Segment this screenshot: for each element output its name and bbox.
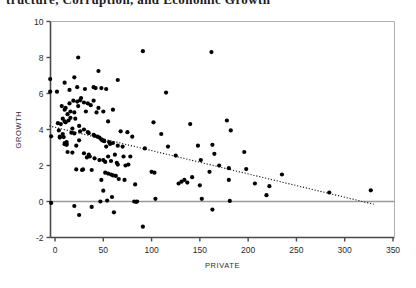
data-point: [210, 143, 214, 147]
data-point: [72, 75, 76, 79]
data-point: [94, 110, 98, 114]
x-tick-label: 250: [289, 245, 303, 255]
data-point: [102, 139, 106, 143]
data-point: [141, 225, 145, 229]
data-point: [227, 166, 231, 170]
data-point: [48, 77, 52, 81]
scatter-plot-figure: tructure, Corruption, and Economic Growt…: [0, 0, 416, 288]
x-tick-label: 50: [99, 245, 109, 255]
data-point: [92, 156, 96, 160]
data-point: [90, 168, 94, 172]
data-point: [242, 150, 246, 154]
y-axis-title: GROWTH: [14, 111, 23, 149]
data-point: [96, 106, 100, 110]
data-point: [79, 96, 83, 100]
data-point: [82, 151, 86, 155]
data-point: [264, 193, 268, 197]
data-point: [130, 135, 134, 139]
data-point: [93, 86, 97, 90]
data-point: [101, 189, 105, 193]
data-point: [126, 163, 130, 167]
data-point: [89, 103, 93, 107]
data-point: [121, 154, 125, 158]
data-point: [60, 104, 64, 108]
data-point: [104, 145, 108, 149]
y-tick-label: 4: [39, 125, 44, 135]
data-point: [117, 177, 121, 181]
axes-group: [47, 22, 395, 242]
data-point: [133, 182, 137, 186]
data-point: [78, 129, 82, 133]
data-point: [153, 197, 157, 201]
x-tick-label: 100: [144, 245, 158, 255]
data-point: [280, 172, 284, 176]
data-point: [125, 130, 129, 134]
data-point: [229, 128, 233, 132]
data-point: [68, 116, 72, 120]
data-point: [74, 167, 78, 171]
data-point: [152, 171, 156, 175]
data-point: [84, 109, 88, 113]
data-point: [114, 174, 118, 178]
x-tick-label: 300: [338, 245, 352, 255]
data-point: [98, 199, 102, 203]
data-point: [116, 163, 120, 167]
data-point: [73, 117, 77, 121]
data-point: [116, 78, 120, 82]
data-point: [72, 204, 76, 208]
x-tick-label: 350: [386, 245, 400, 255]
x-axis-title: PRIVATE: [205, 261, 240, 270]
data-point: [83, 87, 87, 91]
data-point: [217, 163, 221, 167]
data-point: [75, 85, 79, 89]
data-point: [65, 150, 69, 154]
data-point: [119, 129, 123, 133]
data-point: [267, 184, 271, 188]
data-point: [185, 181, 189, 185]
data-point: [159, 132, 163, 136]
x-tick-label: 0: [53, 245, 58, 255]
data-point: [104, 87, 108, 91]
data-point: [82, 100, 86, 104]
data-point: [105, 199, 109, 203]
data-point: [70, 150, 74, 154]
data-point: [81, 167, 85, 171]
data-point: [62, 135, 66, 139]
data-point: [59, 122, 63, 126]
y-tick-label: 2: [39, 161, 44, 171]
data-point: [209, 50, 213, 54]
data-point: [128, 154, 132, 158]
data-point: [110, 195, 114, 199]
data-point: [88, 154, 92, 158]
plot-canvas: -20246810050100150200250300350PRIVATEGRO…: [0, 0, 416, 288]
data-point: [99, 86, 103, 90]
data-point: [64, 106, 68, 110]
data-point: [49, 201, 53, 205]
data-point: [228, 199, 232, 203]
data-point: [76, 104, 80, 108]
data-point: [55, 90, 59, 94]
data-point: [72, 131, 76, 135]
data-point: [135, 199, 139, 203]
data-point: [92, 99, 96, 103]
y-tick-label: 0: [39, 197, 44, 207]
data-point: [77, 124, 81, 128]
data-point: [99, 178, 103, 182]
data-point: [109, 159, 113, 163]
data-point: [67, 88, 71, 92]
data-point: [151, 120, 155, 124]
data-point: [227, 178, 231, 182]
data-point: [90, 205, 94, 209]
data-point: [111, 141, 115, 145]
x-tick-label: 200: [241, 245, 255, 255]
data-point: [198, 183, 202, 187]
data-point: [369, 188, 373, 192]
data-point: [82, 127, 86, 131]
data-point: [70, 127, 74, 131]
data-point: [106, 119, 110, 123]
y-tick-label: 8: [39, 53, 44, 63]
data-point: [164, 91, 168, 95]
data-point: [87, 131, 91, 135]
data-point: [101, 109, 105, 113]
data-point: [76, 55, 80, 59]
